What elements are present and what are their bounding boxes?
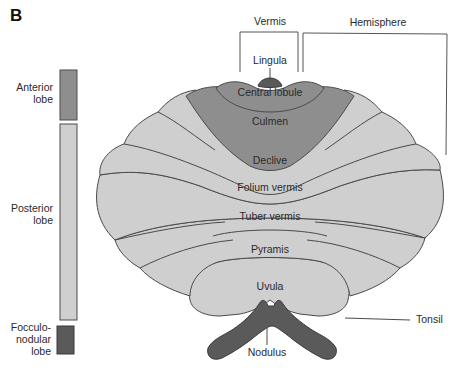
legend-flocculonodular-label-3: lobe <box>31 345 51 357</box>
nodulus-label: Nodulus <box>248 346 287 358</box>
legend-anterior-bar <box>60 70 77 120</box>
folium-vermis-label: Folium vermis <box>237 181 302 193</box>
vermis-label: Vermis <box>254 15 286 27</box>
tonsil-pointer <box>345 318 410 320</box>
culmen-label: Culmen <box>252 115 288 127</box>
uvula-label: Uvula <box>257 280 284 292</box>
legend-posterior-label-1: Posterior <box>11 202 54 214</box>
legend-posterior-label-2: lobe <box>33 214 53 226</box>
pyramis-label: Pyramis <box>251 243 289 255</box>
legend-anterior-label-2: lobe <box>33 93 53 105</box>
panel-label: B <box>10 6 22 25</box>
hemisphere-label: Hemisphere <box>350 16 407 28</box>
lingula-label: Lingula <box>253 54 287 66</box>
legend-flocculonodular-label-1: Focculo- <box>11 321 52 333</box>
legend-posterior-bar <box>60 124 77 320</box>
cerebellum-diagram: B Anterior lobe Posterior lobe Focculo- … <box>0 0 460 373</box>
central-lobule-label: Central lobule <box>238 86 303 98</box>
legend-flocculonodular-label-2: nodular <box>16 333 52 345</box>
declive-label: Declive <box>253 154 288 166</box>
legend-flocculonodular-bar <box>57 326 74 354</box>
legend-anterior-label-1: Anterior <box>16 81 53 93</box>
vermis-bracket <box>240 32 298 72</box>
tuber-vermis-label: Tuber vermis <box>240 210 301 222</box>
tonsil-label: Tonsil <box>416 313 443 325</box>
